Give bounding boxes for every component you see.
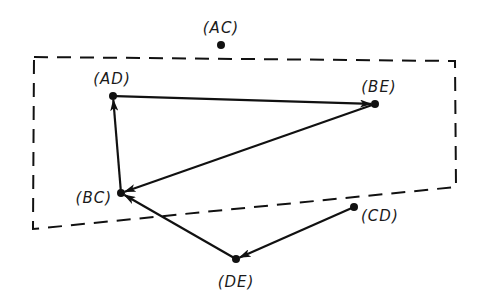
edge-be-to-bc — [125, 105, 372, 192]
node-label-be: (BE) — [361, 78, 396, 96]
node-label-ac: (AC) — [203, 19, 239, 37]
node-layer — [109, 41, 379, 263]
label-layer: (AC)(AD)(BE)(BC)(CD)(DE) — [76, 19, 399, 291]
node-label-bc: (BC) — [76, 189, 112, 207]
node-dot-ac — [217, 41, 225, 49]
edge-bc-to-ad — [113, 100, 120, 190]
edge-de-to-bc — [124, 195, 233, 258]
node-dot-de — [232, 255, 240, 263]
node-dot-cd — [350, 203, 358, 211]
graph-diagram: (AC)(AD)(BE)(BC)(CD)(DE) — [0, 0, 481, 301]
edge-layer — [113, 96, 372, 257]
edge-ad-to-be — [116, 96, 371, 104]
node-dot-be — [371, 100, 379, 108]
node-label-de: (DE) — [218, 273, 255, 291]
node-label-ad: (AD) — [93, 70, 131, 88]
node-label-cd: (CD) — [361, 207, 399, 225]
edge-cd-to-de — [240, 208, 352, 257]
node-dot-ad — [109, 92, 117, 100]
node-dot-bc — [117, 189, 125, 197]
